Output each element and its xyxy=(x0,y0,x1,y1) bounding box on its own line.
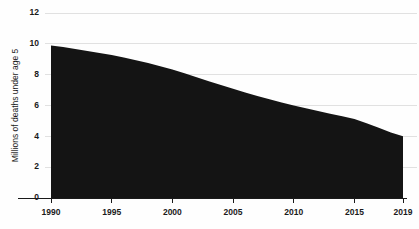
x-tick-label-2019: 2019 xyxy=(394,207,413,217)
x-tick-label-2015: 2015 xyxy=(345,207,364,217)
y-tick-label-12: 12 xyxy=(30,7,40,17)
chart-container: 024681012 1990199520002005201020152019 M… xyxy=(0,0,419,229)
y-axis-title: Millions of deaths under age 5 xyxy=(10,49,20,163)
y-tick-label-4: 4 xyxy=(34,131,39,141)
area-chart: 024681012 1990199520002005201020152019 M… xyxy=(0,0,419,229)
x-tick-label-2010: 2010 xyxy=(284,207,303,217)
y-tick-label-10: 10 xyxy=(30,38,40,48)
y-tick-label-0: 0 xyxy=(34,192,39,202)
y-tick-label-6: 6 xyxy=(34,100,39,110)
y-tick-label-8: 8 xyxy=(34,69,39,79)
x-tick-label-2005: 2005 xyxy=(224,207,243,217)
x-tick-label-1990: 1990 xyxy=(42,207,61,217)
x-tick-label-1995: 1995 xyxy=(102,207,121,217)
x-tick-label-2000: 2000 xyxy=(163,207,182,217)
y-tick-label-2: 2 xyxy=(34,161,39,171)
